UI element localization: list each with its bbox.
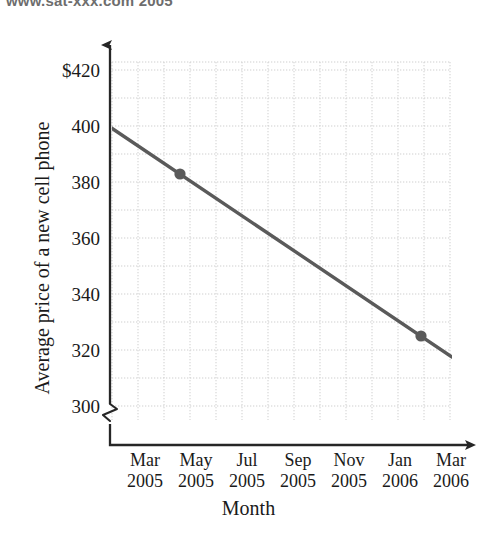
data-point-mar-2006 <box>415 330 426 341</box>
x-tick-mar-2006-month: Mar <box>421 450 481 471</box>
data-point-may-2005 <box>174 168 185 179</box>
x-axis-line <box>110 424 468 445</box>
x-tick-mar-2006-year: 2006 <box>421 471 481 492</box>
line-chart-figure: $420 400 380 360 340 320 300 Average pri… <box>0 0 497 541</box>
x-tick-mar-2006: Mar 2006 <box>421 450 481 492</box>
x-axis-title: Month <box>0 497 497 519</box>
y-axis-break-symbol <box>103 404 117 421</box>
y-tick-420: $420 <box>40 61 100 80</box>
y-axis-title: Average price of a new cell phone <box>29 98 55 418</box>
grid-lines-horizontal <box>112 70 450 406</box>
